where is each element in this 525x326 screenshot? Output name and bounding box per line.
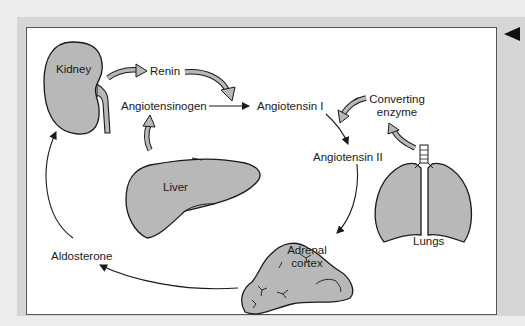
cortex-label: cortex [277, 257, 337, 270]
liver-icon [126, 158, 260, 238]
lungs-icon [375, 145, 471, 242]
liver-label: Liver [163, 181, 188, 194]
aldosterone-to-kidney-arrow [46, 132, 73, 238]
angiotensinogen-label: Angiotensinogen [121, 100, 207, 113]
angiotensin2-label: Angiotensin II [313, 151, 383, 164]
kidney-icon [44, 42, 110, 134]
angiotensin1-label: Angiotensin I [257, 100, 324, 113]
adrenal-label: Adrenal [277, 244, 337, 257]
liver-to-angiotensinogen-arrow [143, 115, 155, 150]
angiotensin2-to-adrenal-arrow [337, 164, 358, 233]
aldosterone-label: Aldosterone [51, 250, 112, 263]
diagram-canvas [0, 0, 525, 326]
lungs-to-enzyme-arrow [388, 123, 415, 148]
kidney-to-renin-arrow [108, 64, 147, 78]
adrenal-to-aldosterone-arrow [100, 265, 238, 289]
enzyme-label: enzyme [362, 106, 432, 119]
renin-label: Renin [150, 65, 180, 78]
kidney-label: Kidney [56, 63, 91, 76]
converting-enzyme-label: Converting enzyme [362, 93, 432, 119]
adrenal-cortex-label: Adrenal cortex [277, 244, 337, 270]
lungs-label: Lungs [413, 235, 444, 248]
converting-label: Converting [362, 93, 432, 106]
renin-to-angiotensin1-arrow [185, 72, 235, 101]
